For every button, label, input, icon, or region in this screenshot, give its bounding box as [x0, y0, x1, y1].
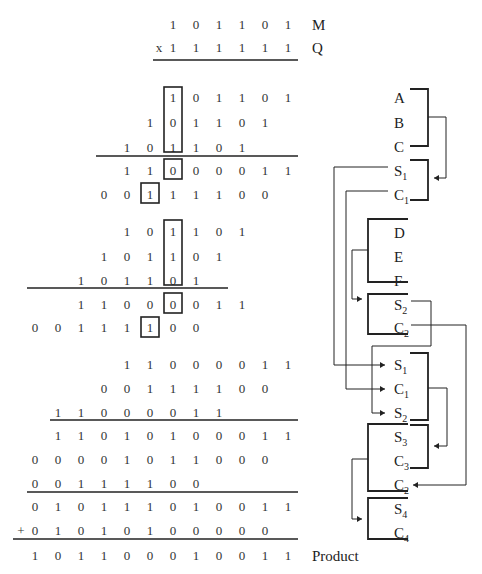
- bit-digit: 0: [170, 357, 177, 372]
- bit-digit: 0: [216, 140, 223, 155]
- bit-digit: 0: [147, 428, 154, 443]
- connection-wire: [352, 250, 368, 299]
- bit-digit: 1: [193, 452, 200, 467]
- partial-row-s3: 11010100011: [55, 428, 292, 443]
- bit-digit: 1: [78, 428, 85, 443]
- bit-digit: 0: [239, 163, 246, 178]
- bit-digit: 1: [147, 523, 154, 538]
- bit-digit: 0: [193, 357, 200, 372]
- bit-digit: 1: [124, 428, 131, 443]
- connection-wire: [352, 459, 368, 519]
- bit-digit: 1: [101, 320, 108, 335]
- bit-digit: 1: [147, 249, 154, 264]
- bit-digit: 0: [216, 548, 223, 563]
- bit-digit: 1: [124, 476, 131, 491]
- arrowhead-icon: [434, 443, 439, 449]
- partial-row-c2b: 00111100: [32, 476, 200, 491]
- bit-digit: 1: [262, 115, 269, 130]
- bit-digit: 0: [262, 381, 269, 396]
- bit-digit: 1: [216, 115, 223, 130]
- bit-digit: 1: [78, 297, 85, 312]
- bit-digit: 1: [239, 90, 246, 105]
- bit-digit: 1: [262, 357, 269, 372]
- bit-digit: 0: [147, 140, 154, 155]
- connection-wire: [334, 167, 388, 365]
- bit-digit: 0: [170, 548, 177, 563]
- bit-digit: 0: [170, 405, 177, 420]
- bit-digit: 1: [147, 320, 154, 335]
- row-label: Product: [312, 548, 359, 564]
- bit-digit: 1: [239, 40, 246, 55]
- bit-digit: 1: [216, 187, 223, 202]
- partial-row-s1: 11000011: [124, 163, 292, 178]
- bit-digit: 1: [101, 548, 108, 563]
- bit-digit: 1: [124, 452, 131, 467]
- times-sign: x: [156, 40, 163, 55]
- bit-digit: 1: [193, 140, 200, 155]
- bit-digit: 0: [55, 476, 62, 491]
- bit-digit: 1: [78, 476, 85, 491]
- bit-digit: 0: [78, 452, 85, 467]
- operand-m: 101101M: [170, 17, 326, 33]
- bit-digit: 0: [101, 187, 108, 202]
- bit-digit: 0: [262, 523, 269, 538]
- bit-digit: 0: [55, 320, 62, 335]
- signal-label-s2: S2: [394, 297, 407, 316]
- bit-digit: 0: [124, 405, 131, 420]
- bit-digit: 0: [239, 357, 246, 372]
- bit-digit: 0: [193, 428, 200, 443]
- partial-row-c4: 01010100000+: [17, 523, 268, 538]
- bit-digit: 0: [239, 381, 246, 396]
- bit-digit: 0: [147, 452, 154, 467]
- bit-digit: 1: [262, 163, 269, 178]
- bit-digit: 1: [262, 428, 269, 443]
- bit-digit: 1: [124, 163, 131, 178]
- bit-digit: 0: [147, 297, 154, 312]
- bit-digit: 1: [147, 381, 154, 396]
- row-label: Q: [312, 40, 323, 56]
- signal-label-c1-stage2: C1: [394, 381, 409, 400]
- bit-digit: 1: [193, 224, 200, 239]
- bit-digit: 1: [285, 548, 292, 563]
- bit-digit: 1: [124, 224, 131, 239]
- bit-digit: 1: [285, 428, 292, 443]
- plus-sign: +: [17, 523, 24, 538]
- bit-digit: 1: [170, 90, 177, 105]
- signal-label-s1-stage2: S1: [394, 357, 407, 376]
- signal-label-c2-stage3: C2: [394, 477, 409, 496]
- signal-label-c4: C4: [394, 525, 409, 544]
- arrowhead-icon: [380, 410, 385, 416]
- bit-digit: 0: [216, 224, 223, 239]
- bit-digit: 1: [285, 357, 292, 372]
- bit-digit: 0: [147, 548, 154, 563]
- bit-digit: 1: [285, 40, 292, 55]
- partial-row-s2: 11000011: [78, 297, 246, 312]
- partial-row-product: 101100010011Product: [32, 548, 360, 564]
- bit-digit: 0: [216, 452, 223, 467]
- bit-digit: 1: [101, 249, 108, 264]
- signal-label-c: C: [394, 139, 404, 155]
- bit-digit: 1: [170, 249, 177, 264]
- signal-label-c3: C3: [394, 453, 409, 472]
- partial-row-d: 101101: [124, 224, 246, 239]
- bit-digit: 1: [147, 163, 154, 178]
- signal-label-c1: C1: [394, 187, 409, 206]
- adder-bracket: [410, 353, 428, 420]
- arrowhead-icon: [380, 386, 385, 392]
- partial-row-b: 101101: [147, 115, 269, 130]
- bit-digit: 0: [193, 297, 200, 312]
- bit-digit: 0: [147, 405, 154, 420]
- bit-digit: 0: [101, 273, 108, 288]
- bit-digit: 1: [285, 90, 292, 105]
- bit-digit: 1: [101, 499, 108, 514]
- bit-digit: 1: [239, 224, 246, 239]
- bit-digit: 1: [262, 40, 269, 55]
- bit-digit: 1: [170, 40, 177, 55]
- bit-digit: 1: [170, 452, 177, 467]
- bit-digit: 0: [216, 428, 223, 443]
- bit-digit: 1: [147, 115, 154, 130]
- bit-digit: 0: [262, 90, 269, 105]
- partial-row-c3: 00001011000: [32, 452, 269, 467]
- bit-digit: 0: [101, 381, 108, 396]
- partial-row-c2: 00111100: [32, 320, 200, 335]
